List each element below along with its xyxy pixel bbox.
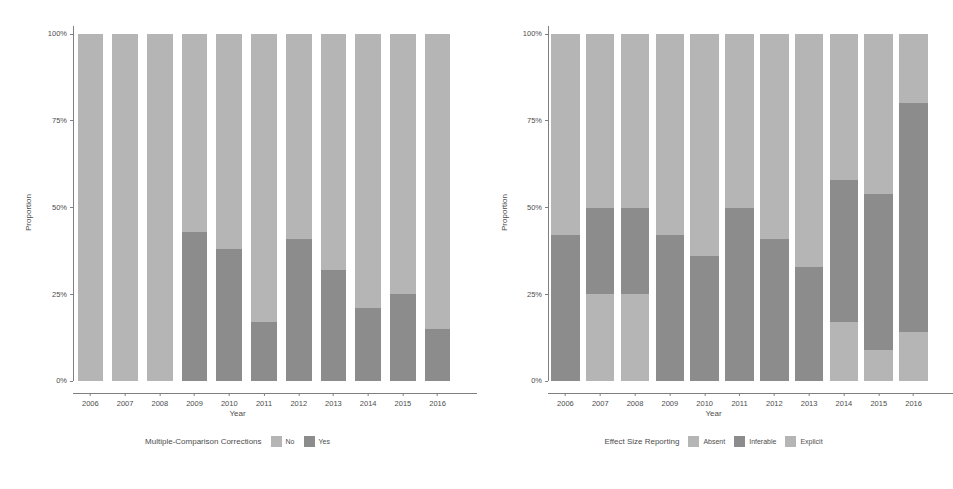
x-tick-right: 2008 bbox=[627, 393, 644, 408]
legend-title-left: Multiple-Comparison Corrections bbox=[145, 437, 261, 446]
x-tick-left: 2008 bbox=[151, 393, 168, 408]
x-tick-label: 2011 bbox=[256, 400, 272, 408]
bar-segment bbox=[286, 239, 312, 381]
legend-item[interactable]: Absent bbox=[688, 436, 725, 447]
chart-panel-left: Proportion 100%75%50%25%0% 2006200720082… bbox=[0, 0, 475, 489]
x-tick-mark bbox=[194, 393, 195, 396]
bar-segment bbox=[321, 34, 347, 270]
bar-segment bbox=[725, 34, 754, 208]
bar-segment bbox=[425, 329, 451, 381]
bar-segment bbox=[830, 322, 859, 381]
x-tick-mark bbox=[774, 393, 775, 396]
stacked-bar bbox=[251, 34, 277, 381]
bar-segment bbox=[899, 103, 928, 332]
x-tick-label: 2008 bbox=[627, 400, 644, 408]
y-axis-title-right: Proportion bbox=[500, 183, 509, 243]
x-tick-label: 2014 bbox=[360, 400, 377, 408]
bar-segment bbox=[182, 232, 208, 381]
x-tick-mark bbox=[368, 393, 369, 396]
legend-item[interactable]: Inferable bbox=[734, 436, 776, 447]
x-tick-label: 2016 bbox=[905, 400, 922, 408]
x-tick-label: 2010 bbox=[221, 400, 238, 408]
x-tick-mark bbox=[437, 393, 438, 396]
x-axis-title-right: Year bbox=[476, 409, 951, 418]
bar-segment bbox=[760, 34, 789, 239]
x-tick-mark bbox=[878, 393, 879, 396]
stacked-bar bbox=[78, 34, 104, 381]
y-tick-label: 0% bbox=[531, 377, 545, 385]
stacked-bar bbox=[425, 34, 451, 381]
x-tick-left: 2009 bbox=[186, 393, 203, 408]
y-tick-label: 100% bbox=[48, 30, 70, 38]
bar-segment bbox=[390, 34, 416, 294]
x-tick-mark bbox=[263, 393, 264, 396]
x-axis-line-left bbox=[73, 393, 477, 394]
x-tick-right: 2014 bbox=[836, 393, 853, 408]
bar-segment bbox=[251, 322, 277, 381]
stacked-bar bbox=[321, 34, 347, 381]
legend-label: Absent bbox=[703, 438, 725, 445]
bar-segment bbox=[830, 34, 859, 180]
legend-swatch-icon bbox=[304, 436, 315, 447]
stacked-bar bbox=[656, 34, 685, 381]
stacked-bar bbox=[551, 34, 580, 381]
stacked-bar bbox=[390, 34, 416, 381]
x-tick-left: 2012 bbox=[290, 393, 307, 408]
x-tick-left: 2016 bbox=[429, 393, 446, 408]
x-tick-label: 2006 bbox=[557, 400, 574, 408]
stacked-bar bbox=[147, 34, 173, 381]
bar-segment bbox=[656, 235, 685, 381]
x-axis-title-left: Year bbox=[0, 409, 475, 418]
y-tick-label: 0% bbox=[56, 377, 70, 385]
legend-item[interactable]: No bbox=[271, 436, 295, 447]
legend-swatch-icon bbox=[271, 436, 282, 447]
bar-segment bbox=[321, 270, 347, 381]
x-tick-mark bbox=[333, 393, 334, 396]
x-tick-mark bbox=[669, 393, 670, 396]
legend-label: Yes bbox=[319, 438, 330, 445]
bar-segment bbox=[216, 249, 242, 381]
y-tick-label: 25% bbox=[527, 291, 545, 299]
bar-segment bbox=[425, 34, 451, 329]
x-tick-label: 2010 bbox=[696, 400, 713, 408]
x-tick-mark bbox=[229, 393, 230, 396]
x-tick-label: 2012 bbox=[290, 400, 307, 408]
x-tick-label: 2006 bbox=[82, 400, 99, 408]
bar-segment bbox=[795, 34, 824, 266]
bar-segment bbox=[760, 239, 789, 381]
x-tick-mark bbox=[635, 393, 636, 396]
x-tick-left: 2013 bbox=[325, 393, 342, 408]
legend-title-right: Effect Size Reporting bbox=[604, 437, 679, 446]
x-tick-right: 2010 bbox=[696, 393, 713, 408]
x-tick-label: 2015 bbox=[870, 400, 887, 408]
stacked-bar bbox=[355, 34, 381, 381]
x-tick-left: 2011 bbox=[256, 393, 272, 408]
x-tick-right: 2009 bbox=[662, 393, 679, 408]
stacked-bar bbox=[182, 34, 208, 381]
chart-panel-right: Proportion 100%75%50%25%0% 2006200720082… bbox=[476, 0, 951, 489]
legend-item[interactable]: Yes bbox=[304, 436, 330, 447]
stacked-bar bbox=[112, 34, 138, 381]
legend-item[interactable]: Explicit bbox=[785, 436, 822, 447]
stacked-bar bbox=[795, 34, 824, 381]
bar-segment bbox=[78, 34, 104, 381]
bar-segment bbox=[899, 34, 928, 103]
bar-segment bbox=[725, 208, 754, 382]
bar-segment bbox=[690, 34, 719, 256]
plot-area-right bbox=[548, 34, 931, 381]
x-tick-left: 2015 bbox=[395, 393, 412, 408]
x-tick-mark bbox=[159, 393, 160, 396]
bar-segment bbox=[864, 34, 893, 194]
x-tick-label: 2009 bbox=[186, 400, 203, 408]
x-tick-mark bbox=[739, 393, 740, 396]
x-tick-label: 2016 bbox=[429, 400, 446, 408]
bar-segment bbox=[795, 267, 824, 382]
bar-segment bbox=[551, 34, 580, 235]
bar-segment bbox=[690, 256, 719, 381]
x-tick-right: 2013 bbox=[801, 393, 818, 408]
bar-segment bbox=[216, 34, 242, 249]
x-axis-line-right bbox=[548, 393, 953, 394]
bar-segment bbox=[355, 308, 381, 381]
y-tick-label: 25% bbox=[52, 291, 70, 299]
x-tick-label: 2011 bbox=[731, 400, 747, 408]
